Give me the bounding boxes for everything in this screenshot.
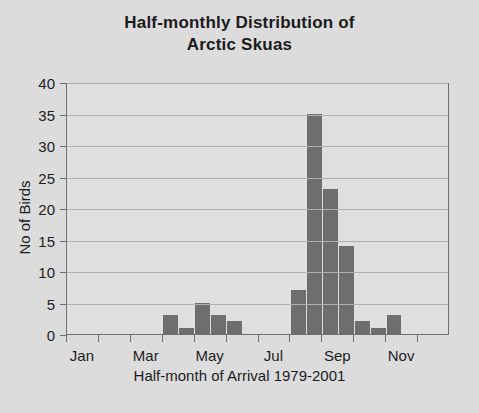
- y-tick-label: 30: [38, 138, 55, 155]
- y-tick-label: 35: [38, 106, 55, 123]
- y-tick-label: 25: [38, 169, 55, 186]
- y-tick-label: 15: [38, 232, 55, 249]
- bar: [339, 246, 354, 334]
- gridline: [67, 272, 448, 273]
- x-tick-label: May: [195, 347, 223, 364]
- x-tick-label: Sep: [324, 347, 351, 364]
- x-tick-mark: [162, 335, 163, 342]
- bar: [323, 189, 338, 334]
- x-tick-mark: [98, 335, 99, 342]
- bar: [355, 321, 370, 334]
- chart-figure: Half-monthly Distribution of Arctic Skua…: [0, 0, 479, 413]
- bar: [179, 328, 194, 334]
- x-tick-mark: [321, 335, 322, 342]
- gridline: [67, 304, 448, 305]
- x-tick-mark: [130, 335, 131, 342]
- chart-title-line-1: Half-monthly Distribution of: [0, 12, 479, 34]
- x-tick-label: Mar: [133, 347, 159, 364]
- y-axis: No of Birds 0510152025303540: [0, 83, 66, 335]
- x-tick-mark: [353, 335, 354, 342]
- y-tick-label: 10: [38, 264, 55, 281]
- gridline: [67, 83, 448, 84]
- y-tick-label: 20: [38, 201, 55, 218]
- x-tick-mark: [385, 335, 386, 342]
- bar: [211, 315, 226, 334]
- x-axis-label: Half-month of Arrival 1979-2001: [0, 367, 479, 384]
- chart-title-line-2: Arctic Skuas: [0, 34, 479, 56]
- plot-area: [66, 83, 449, 335]
- bar: [227, 321, 242, 334]
- gridline: [67, 241, 448, 242]
- x-tick-mark: [417, 335, 418, 342]
- gridline: [67, 146, 448, 147]
- x-tick-mark: [289, 335, 290, 342]
- chart-title: Half-monthly Distribution of Arctic Skua…: [0, 12, 479, 56]
- x-tick-label: Nov: [388, 347, 415, 364]
- bar: [195, 303, 210, 335]
- x-tick-label: Jan: [70, 347, 94, 364]
- gridline: [67, 209, 448, 210]
- y-axis-label: No of Birds: [16, 108, 33, 328]
- y-tick-label: 0: [47, 327, 55, 344]
- y-tick-label: 40: [38, 75, 55, 92]
- x-axis: JanMarMayJulSepNov: [66, 335, 449, 395]
- y-tick-label: 5: [47, 295, 55, 312]
- x-tick-label: Jul: [264, 347, 283, 364]
- gridline: [67, 178, 448, 179]
- gridline: [67, 115, 448, 116]
- x-tick-mark: [66, 335, 67, 342]
- bar: [371, 328, 386, 334]
- x-tick-mark: [226, 335, 227, 342]
- x-tick-mark: [258, 335, 259, 342]
- bar: [291, 290, 306, 334]
- bar: [387, 315, 402, 334]
- x-tick-mark: [194, 335, 195, 342]
- bar: [163, 315, 178, 334]
